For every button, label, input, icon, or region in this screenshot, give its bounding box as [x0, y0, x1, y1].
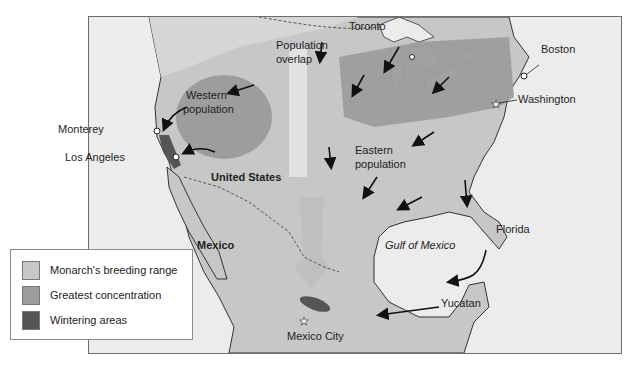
label-eastern-population-1: Eastern [355, 144, 393, 157]
label-boston: Boston [541, 43, 575, 56]
legend-label: Monarch's breeding range [50, 264, 177, 276]
label-monterey-outer: Monterey [58, 123, 104, 136]
monterey-marker [154, 128, 160, 134]
wintering-areas-swatch [22, 311, 40, 330]
label-washington: Washington [518, 93, 576, 106]
boston-marker [521, 73, 527, 79]
label-gulf-of-mexico: Gulf of Mexico [385, 239, 455, 252]
legend-label: Wintering areas [50, 314, 127, 326]
los-angeles-marker [173, 154, 179, 160]
western-concentration [176, 75, 272, 159]
map-legend: Monarch's breeding range Greatest concen… [10, 249, 193, 340]
legend-label: Greatest concentration [50, 289, 161, 301]
label-mexico: Mexico [197, 239, 234, 252]
label-eastern-population-2: population [355, 158, 406, 171]
label-western-population-1: Western [186, 89, 227, 102]
washington-star: ★ [491, 98, 501, 110]
label-population-overlap-2: overlap [276, 53, 312, 66]
label-florida: Florida [496, 223, 530, 236]
label-population-overlap-1: Population [276, 39, 328, 52]
label-mexico-city: Mexico City [287, 330, 344, 343]
greatest-concentration-swatch [22, 286, 40, 305]
mexico-city-star: ★ [299, 315, 309, 327]
breeding-range-swatch [22, 261, 40, 280]
label-western-population-2: population [183, 103, 234, 116]
overlap-band [289, 47, 307, 177]
label-united-states: United States [211, 171, 281, 184]
label-toronto: Toronto [349, 20, 386, 33]
label-los-angeles: Los Angeles [65, 151, 125, 164]
label-yucatan: Yucatan [441, 297, 481, 310]
toronto-marker [410, 55, 415, 60]
